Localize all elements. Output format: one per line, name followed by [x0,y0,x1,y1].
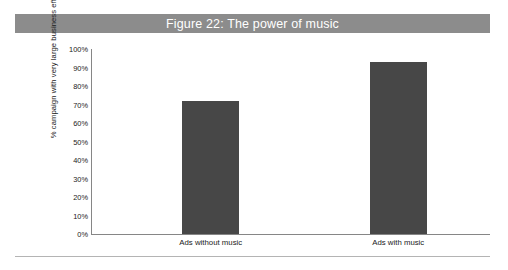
x-axis-category-labels: Ads without musicAds with music [91,238,490,254]
y-axis-tick: 0% [58,230,88,239]
figure-bottom-divider [15,256,490,257]
y-axis-title: % campaign with very large business effe… [49,0,58,157]
y-axis-tick: 80% [58,82,88,91]
bar [182,101,239,234]
x-axis-line [91,234,490,235]
figure-container: Figure 22: The power of music % campaign… [0,0,508,270]
page-title: Figure 22: The power of music [166,17,339,31]
y-axis-tick: 70% [58,100,88,109]
y-axis-tick: 50% [58,137,88,146]
y-axis-tick: 20% [58,193,88,202]
x-axis-category-label: Ads with music [372,238,424,247]
y-axis-tick: 40% [58,156,88,165]
y-axis-tick: 10% [58,211,88,220]
y-axis-tick: 30% [58,174,88,183]
x-axis-category-label: Ads without music [179,238,242,247]
chart-plot-area: % campaign with very large business effe… [0,33,508,255]
bar-series [91,49,490,234]
y-axis-tick: 90% [58,63,88,72]
y-axis-tick: 60% [58,119,88,128]
y-axis-tick: 100% [58,45,88,54]
bar [370,62,427,234]
y-axis-tick-labels: 100%90%80%70%60%50%40%30%20%10%0% [58,43,88,233]
figure-title-banner: Figure 22: The power of music [15,14,490,33]
